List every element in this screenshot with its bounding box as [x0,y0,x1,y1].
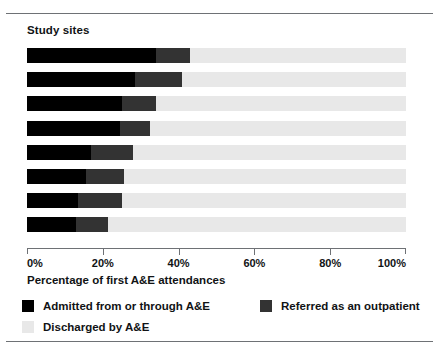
x-axis-tick-label: 60% [243,257,265,269]
legend-label: Discharged by A&E [43,321,149,333]
legend-item: Discharged by A&E [22,321,149,333]
bar-segment-referred [135,72,182,87]
x-axis-tick [103,249,104,255]
chart-legend: Admitted from or through A&EReferred as … [22,300,422,340]
bar-segment-referred [122,96,156,111]
bar-row [27,72,406,87]
bar-segment-referred [120,121,150,136]
x-axis-tick-label: 80% [319,257,341,269]
chart-title: Study sites [27,24,89,36]
x-axis-tick-label: 40% [168,257,190,269]
legend-swatch [260,300,272,312]
legend-swatch [22,321,34,333]
x-axis-tick-label: 0% [27,257,43,269]
bar-segment-referred [156,48,190,63]
x-axis [27,248,406,254]
x-axis-tick-label: 20% [92,257,114,269]
legend-item: Referred as an outpatient [260,300,420,312]
bar-segment-referred [78,193,122,208]
bar-row [27,193,406,208]
x-axis-tick-label: 100% [378,257,406,269]
bar-segment-admitted [27,193,78,208]
bar-row [27,96,406,111]
legend-label: Admitted from or through A&E [43,300,210,312]
bar-segment-admitted [27,121,120,136]
bottom-divider [6,341,433,342]
bar-row [27,169,406,184]
bar-segment-admitted [27,217,76,232]
bar-segment-referred [91,145,133,160]
bar-segment-admitted [27,169,86,184]
top-divider [6,13,433,14]
x-axis-title: Percentage of first A&E attendances [27,274,225,286]
x-axis-tick [254,249,255,255]
bar-segment-referred [86,169,124,184]
bar-segment-admitted [27,72,135,87]
x-axis-tick [330,249,331,255]
x-axis-tick [179,249,180,255]
bar-segment-admitted [27,145,91,160]
chart-figure: Study sites Percentage of first A&E atte… [0,0,439,354]
bar-segment-admitted [27,96,122,111]
plot-area [27,48,406,244]
bar-segment-admitted [27,48,156,63]
bar-segment-referred [76,217,108,232]
legend-item: Admitted from or through A&E [22,300,210,312]
bar-row [27,217,406,232]
bar-row [27,48,406,63]
bar-row [27,121,406,136]
legend-swatch [22,300,34,312]
legend-label: Referred as an outpatient [281,300,420,312]
bar-row [27,145,406,160]
